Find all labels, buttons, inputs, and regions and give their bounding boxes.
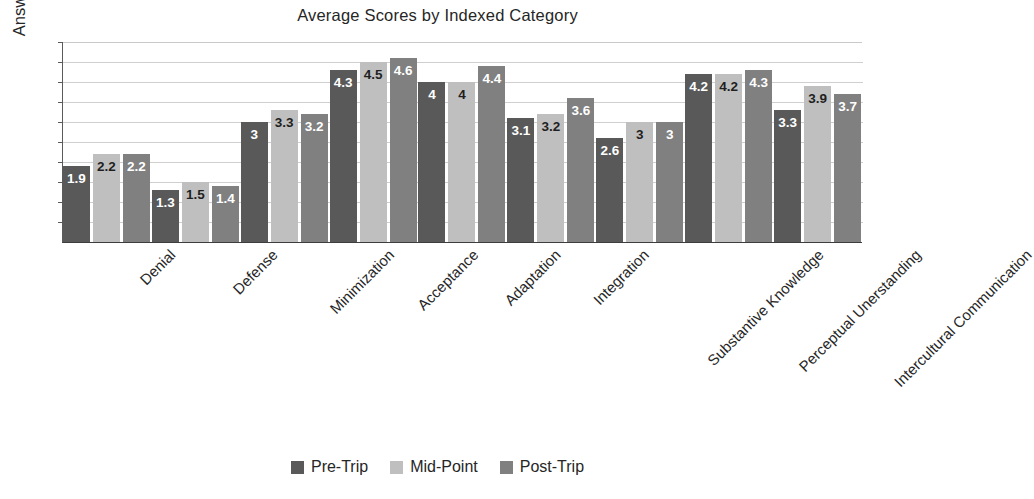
y-axis-title: Answer Scale (1-5) [10,0,34,66]
bar[interactable] [804,86,831,242]
bar-value-label: 3.1 [507,124,534,138]
bar[interactable] [774,110,801,242]
bar[interactable] [390,58,417,242]
legend-label: Pre-Trip [311,458,368,476]
legend-label: Post-Trip [520,458,584,476]
bar[interactable] [567,98,594,242]
bar[interactable] [685,74,712,242]
x-axis-label: Minimization [327,246,398,317]
bar-value-label: 4.6 [390,64,417,78]
x-axis-label: Defense [230,246,282,298]
bar-value-label: 1.3 [152,196,179,210]
legend-swatch-icon [390,461,403,474]
bar-value-label: 3 [241,128,268,142]
bar-value-label: 4.4 [478,72,505,86]
bar[interactable] [448,82,475,242]
bar-groups: 1.92.22.21.31.51.433.33.24.34.54.6444.43… [62,42,862,242]
bar-value-label: 4.3 [330,76,357,90]
bar-value-label: 3.7 [834,100,861,114]
bar-group: 1.31.51.4 [151,42,240,242]
bar-value-label: 1.4 [212,192,239,206]
bar-value-label: 2.2 [93,160,120,174]
bar-value-label: 3 [626,128,653,142]
bar-value-label: 1.9 [63,172,90,186]
bar-group: 2.633 [595,42,684,242]
x-axis-label: Acceptance [414,246,481,313]
bar-value-label: 4.2 [715,80,742,94]
bar-value-label: 3.3 [774,116,801,130]
x-axis-labels: DenialDefenseMinimizationAcceptanceAdapt… [62,246,862,356]
bar-value-label: 4.3 [745,76,772,90]
bar-value-label: 4.2 [685,80,712,94]
x-axis-label: Denial [137,246,179,288]
bar-group: 33.33.2 [240,42,329,242]
bar-group: 3.33.93.7 [773,42,862,242]
legend-item[interactable]: Post-Trip [500,458,584,476]
bar[interactable] [418,82,445,242]
bar[interactable] [834,94,861,242]
bar-value-label: 3.2 [301,120,328,134]
bar-group: 3.13.23.6 [506,42,595,242]
bar[interactable] [271,110,298,242]
bar-value-label: 3.2 [537,120,564,134]
bar-value-label: 4 [418,88,445,102]
bar[interactable] [478,66,505,242]
bar-value-label: 3.9 [804,92,831,106]
bar-value-label: 3 [656,128,683,142]
bar-group: 1.92.22.2 [62,42,151,242]
chart-title: Average Scores by Indexed Category [0,6,875,25]
bar-value-label: 1.5 [182,188,209,202]
bar-value-label: 2.6 [596,144,623,158]
legend-item[interactable]: Pre-Trip [291,458,368,476]
legend-label: Mid-Point [410,458,478,476]
bar-group: 4.24.24.3 [684,42,773,242]
bar[interactable] [330,70,357,242]
bar-group: 444.4 [418,42,507,242]
bar-value-label: 3.3 [271,116,298,130]
bar[interactable] [745,70,772,242]
bar-value-label: 4.5 [360,68,387,82]
x-axis-label: Integration [590,246,652,308]
legend-swatch-icon [291,461,304,474]
x-axis-label: Adaptation [501,246,564,309]
bar-value-label: 2.2 [123,160,150,174]
bar-group: 4.34.54.6 [329,42,418,242]
bar-value-label: 4 [448,88,475,102]
legend-item[interactable]: Mid-Point [390,458,478,476]
legend-swatch-icon [500,461,513,474]
y-axis-title-label: Answer Scale (1-5) [10,0,29,66]
bar[interactable] [715,74,742,242]
chart-legend: Pre-TripMid-PointPost-Trip [0,458,875,476]
bar-value-label: 3.6 [567,104,594,118]
bar[interactable] [360,62,387,242]
